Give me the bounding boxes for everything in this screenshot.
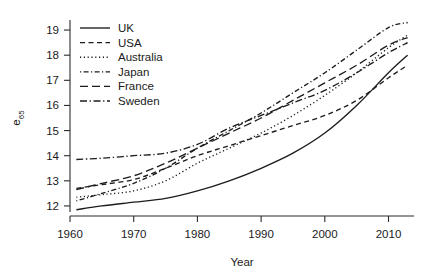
chart-legend: UKUSAAustraliaJapanFranceSweden <box>80 22 163 107</box>
chart-container: 1213141516171819 19601970198019902000201… <box>0 0 434 278</box>
y-axis-title-subscript: 65 <box>17 110 26 119</box>
legend-label-france: France <box>118 80 154 92</box>
y-tick-label: 19 <box>46 24 59 36</box>
x-tick-label: 1990 <box>248 228 274 240</box>
y-tick-label: 12 <box>46 200 59 212</box>
x-axis-title: Year <box>230 256 253 268</box>
legend-label-usa: USA <box>118 37 142 49</box>
y-tick-label: 16 <box>46 99 59 111</box>
y-tick-label: 15 <box>46 125 59 137</box>
x-tick-label: 1970 <box>121 228 147 240</box>
y-axis-ticks: 1213141516171819 <box>46 24 70 212</box>
x-tick-label: 1980 <box>185 228 211 240</box>
y-tick-label: 14 <box>46 150 59 162</box>
svg-text:e65: e65 <box>10 110 26 126</box>
legend-label-japan: Japan <box>118 66 149 78</box>
y-axis-title: e65 <box>10 110 26 126</box>
y-tick-label: 13 <box>46 175 59 187</box>
series-line-japan <box>76 23 407 201</box>
x-tick-label: 1960 <box>57 228 83 240</box>
line-chart: 1213141516171819 19601970198019902000201… <box>0 0 434 278</box>
y-tick-label: 18 <box>46 49 59 61</box>
legend-label-sweden: Sweden <box>118 95 160 107</box>
legend-label-uk: UK <box>118 22 134 34</box>
legend-label-australia: Australia <box>118 51 163 63</box>
x-tick-label: 2010 <box>376 228 402 240</box>
x-axis-ticks: 196019701980199020002010 <box>57 216 401 240</box>
y-tick-label: 17 <box>46 74 59 86</box>
x-tick-label: 2000 <box>312 228 338 240</box>
